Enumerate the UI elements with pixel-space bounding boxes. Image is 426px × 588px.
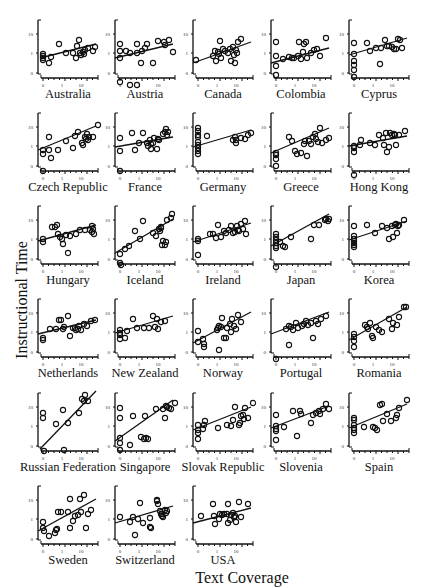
y-tick-label: 1 xyxy=(342,51,345,56)
data-point xyxy=(73,55,78,60)
data-point xyxy=(172,400,177,405)
data-point xyxy=(229,316,234,321)
data-point xyxy=(154,146,159,151)
x-tick-label: 0 xyxy=(42,549,45,554)
data-point xyxy=(137,500,142,505)
y-tick-label: 10 xyxy=(339,218,345,223)
data-point xyxy=(130,316,135,321)
panel-country-label: Slovenia xyxy=(279,460,323,474)
data-point xyxy=(351,344,356,349)
y-tick-label: 10 xyxy=(261,32,267,37)
data-point xyxy=(135,516,140,521)
data-point xyxy=(367,320,372,325)
x-tick-label: 0 xyxy=(197,83,200,88)
data-point xyxy=(215,222,220,227)
x-tick-label: 0 xyxy=(353,362,356,367)
data-point xyxy=(117,440,122,445)
y-tick-label: 1 xyxy=(186,517,189,522)
data-point xyxy=(63,138,68,143)
panel-netherlands: 10100110Netherlands xyxy=(28,299,98,380)
y-tick-label: 10 xyxy=(183,32,189,37)
y-tick-label: 10 xyxy=(261,218,267,223)
data-point xyxy=(141,325,146,330)
panel-greece: 10100110Greece xyxy=(261,113,332,194)
data-point xyxy=(166,37,171,42)
data-point xyxy=(195,328,200,333)
data-point xyxy=(117,148,122,153)
y-tick-label: 10 xyxy=(105,311,111,316)
panel-country-label: Greece xyxy=(283,180,319,194)
data-point xyxy=(273,63,278,68)
panel-country-label: Japan xyxy=(287,273,316,287)
panel-country-label: Switzerland xyxy=(115,553,175,567)
panel-country-label: Portugal xyxy=(280,366,323,380)
y-tick-label: 1 xyxy=(342,330,345,335)
data-point xyxy=(140,520,145,525)
y-tick-label: 0 xyxy=(186,537,189,542)
panel-iceland: 10100110Iceland xyxy=(105,206,175,287)
y-tick-label: 1 xyxy=(186,424,189,429)
data-point xyxy=(117,405,122,410)
panel-country-label: Spain xyxy=(365,460,394,474)
y-tick-label: 1 xyxy=(264,424,267,429)
panel-korea: 10100110Korea xyxy=(339,206,409,287)
data-point xyxy=(364,40,369,45)
x-axis-title: Text Coverage xyxy=(195,569,289,587)
panel-country-label: Cyprus xyxy=(361,87,397,101)
data-point xyxy=(117,135,122,140)
data-point xyxy=(304,153,309,158)
data-point xyxy=(317,53,322,58)
data-point xyxy=(310,335,315,340)
data-point xyxy=(76,37,81,42)
data-point xyxy=(228,329,233,334)
y-tick-label: 10 xyxy=(183,498,189,503)
panel-country-label: Germany xyxy=(200,180,247,194)
data-point xyxy=(238,319,243,324)
data-point xyxy=(95,122,100,127)
data-point xyxy=(212,521,217,526)
data-point xyxy=(316,222,321,227)
data-point xyxy=(238,514,243,519)
panel-country-label: Hong Kong xyxy=(350,180,409,194)
panel-sweden: 10100110Sweden xyxy=(28,486,98,567)
y-tick-label: 10 xyxy=(261,311,267,316)
data-point xyxy=(358,137,363,142)
data-point xyxy=(48,155,53,160)
data-point xyxy=(117,48,122,53)
panel-new-zealand: 10100110New Zealand xyxy=(105,299,179,380)
data-point xyxy=(70,518,75,523)
panel-russian-federation: 10100110Russian Federation xyxy=(20,391,117,474)
panel-cyprus: 10100110Cyprus xyxy=(339,20,409,101)
data-point xyxy=(286,342,291,347)
panel-country-label: Hungary xyxy=(46,273,90,287)
data-point xyxy=(61,447,66,452)
y-tick-label: 1 xyxy=(186,51,189,56)
data-point xyxy=(379,223,384,228)
panel-country-label: France xyxy=(128,180,162,194)
regression-line xyxy=(115,137,173,147)
data-point xyxy=(217,38,222,43)
data-point xyxy=(198,513,203,518)
data-point xyxy=(55,147,60,152)
data-point xyxy=(230,417,235,422)
data-point xyxy=(384,149,389,154)
panel-austria: 10100110Austria xyxy=(105,20,176,101)
y-tick-label: 1 xyxy=(108,424,111,429)
y-tick-label: 1 xyxy=(186,144,189,149)
data-point xyxy=(394,230,399,235)
data-point xyxy=(70,145,75,150)
panel-canada: 10100110Canada xyxy=(183,20,253,101)
y-tick-label: 0 xyxy=(186,444,189,449)
y-tick-label: 1 xyxy=(186,237,189,242)
panel-spain: 10100110Spain xyxy=(339,393,410,474)
panel-country-label: Czech Republic xyxy=(28,180,108,194)
panel-country-label: Romania xyxy=(356,366,402,380)
data-point xyxy=(46,134,51,139)
data-point xyxy=(117,514,122,519)
y-tick-label: 0 xyxy=(186,257,189,262)
data-point xyxy=(127,519,132,524)
y-tick-label: 1 xyxy=(108,237,111,242)
y-tick-label: 0 xyxy=(108,350,111,355)
panel-slovenia: 10100110Slovenia xyxy=(261,393,332,474)
data-point xyxy=(215,425,220,430)
